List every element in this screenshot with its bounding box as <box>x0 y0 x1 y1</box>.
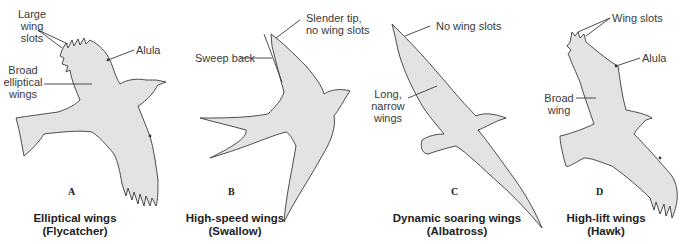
label-line: Slender tip, <box>306 12 386 24</box>
caption-title: High-lift wings <box>556 212 656 225</box>
label-line: slots <box>14 32 50 44</box>
label-alula-a: Alula <box>136 44 160 56</box>
label-line: wings <box>2 88 44 100</box>
label-large-wing-slots: Large wing slots <box>14 8 50 44</box>
panel-letter-b: B <box>228 186 235 197</box>
label-no-wing-slots: No wing slots <box>436 20 501 32</box>
swallow-silhouette <box>200 20 350 222</box>
caption-subtitle: (Swallow) <box>180 225 290 238</box>
caption-a: Elliptical wings (Flycatcher) <box>20 212 130 238</box>
label-broad-elliptical-wings: Broad elliptical wings <box>2 64 44 100</box>
flycatcher-silhouette <box>16 30 166 206</box>
label-alula-d: Alula <box>642 52 666 64</box>
label-line: Large <box>14 8 50 20</box>
label-line: wing <box>542 104 576 116</box>
hawk-silhouette <box>560 18 677 218</box>
caption-subtitle: (Albatross) <box>392 225 522 238</box>
panel-letter-a: A <box>68 186 75 197</box>
label-sweep-back: Sweep back <box>195 52 255 64</box>
caption-subtitle: (Hawk) <box>556 225 656 238</box>
label-slender-tip: Slender tip, no wing slots <box>306 12 386 36</box>
label-line: no wing slots <box>306 24 386 36</box>
panel-letter-c: C <box>451 186 458 197</box>
label-line: Broad <box>542 92 576 104</box>
label-long-narrow-wings: Long, narrow wings <box>368 88 408 124</box>
label-line: elliptical <box>2 76 44 88</box>
label-wing-slots: Wing slots <box>612 12 663 24</box>
label-line: narrow <box>368 100 408 112</box>
caption-d: High-lift wings (Hawk) <box>556 212 656 238</box>
panel-letter-d: D <box>596 186 603 197</box>
caption-title: High-speed wings <box>180 212 290 225</box>
caption-b: High-speed wings (Swallow) <box>180 212 290 238</box>
caption-c: Dynamic soaring wings (Albatross) <box>392 212 522 238</box>
label-line: Long, <box>368 88 408 100</box>
label-broad-wing: Broad wing <box>542 92 576 116</box>
label-line: wing <box>14 20 50 32</box>
caption-subtitle: (Flycatcher) <box>20 225 130 238</box>
albatross-silhouette <box>392 24 542 228</box>
bird-silhouettes <box>0 0 681 244</box>
label-line: Broad <box>2 64 44 76</box>
caption-title: Elliptical wings <box>20 212 130 225</box>
caption-title: Dynamic soaring wings <box>392 212 522 225</box>
label-line: wings <box>368 112 408 124</box>
